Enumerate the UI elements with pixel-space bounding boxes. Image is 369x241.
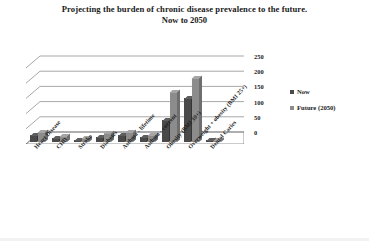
x-axis-category-label: Stroke [77,133,93,150]
chart-legend: NowFuture (2050) [290,88,336,120]
legend-label: Future (2050) [297,104,336,111]
legend-label: Now [297,88,310,95]
legend-item: Now [290,88,336,95]
x-axis-category-label: CHD [55,136,68,150]
legend-item: Future (2050) [290,104,336,111]
legend-swatch [290,106,294,110]
legend-swatch [290,90,294,94]
x-axis-category-label: Diabetes [99,129,118,150]
x-axis-category-labels: Heart DiseaseCHDStrokeDiabetesAsthma - l… [0,0,369,241]
